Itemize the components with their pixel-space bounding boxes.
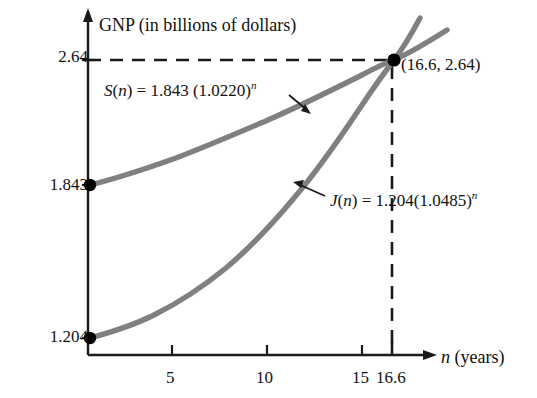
y-tick-label-1-204: 1.204 [50, 328, 88, 345]
y-axis-arrowhead [83, 8, 93, 22]
equation-s-variable: n [118, 81, 127, 100]
equation-s-body: = 1.843 (1.0220) [132, 81, 251, 100]
curve-j-n [90, 18, 420, 338]
x-axis-title-variable: n [441, 347, 450, 367]
y-tick-label-2-64: 2.64 [58, 48, 88, 65]
y-tick-label-1-843: 1.843 [50, 176, 88, 193]
intersection-point-label: (16.6, 2.64) [401, 56, 480, 73]
equation-s-function-name: S [104, 81, 113, 100]
x-tick-label-15: 15 [352, 369, 369, 386]
equation-s-exponent: n [251, 79, 257, 91]
y-axis-title: GNP (in billions of dollars) [99, 16, 296, 34]
x-tick-label-5: 5 [166, 369, 175, 386]
x-tick-label-10: 10 [256, 369, 273, 386]
equation-label-j: J(n) = 1.204(1.0485)n [330, 190, 477, 209]
equation-j-variable: n [343, 191, 352, 210]
x-axis-title-units: (years) [450, 347, 504, 367]
equation-j-exponent: n [472, 189, 478, 201]
marker-intersection-dot [387, 53, 400, 66]
gnp-exponential-growth-chart: GNP (in billions of dollars) n (years) 2… [0, 0, 537, 398]
x-axis-arrowhead [423, 350, 437, 360]
equation-label-s: S(n) = 1.843 (1.0220)n [104, 80, 257, 99]
curve-s-n [90, 30, 447, 185]
equation-j-body: = 1.204(1.0485) [357, 191, 471, 210]
equation-j-function-name: J [330, 191, 338, 210]
x-axis-title: n (years) [441, 348, 504, 366]
x-tick-label-16-6: 16.6 [376, 369, 406, 386]
